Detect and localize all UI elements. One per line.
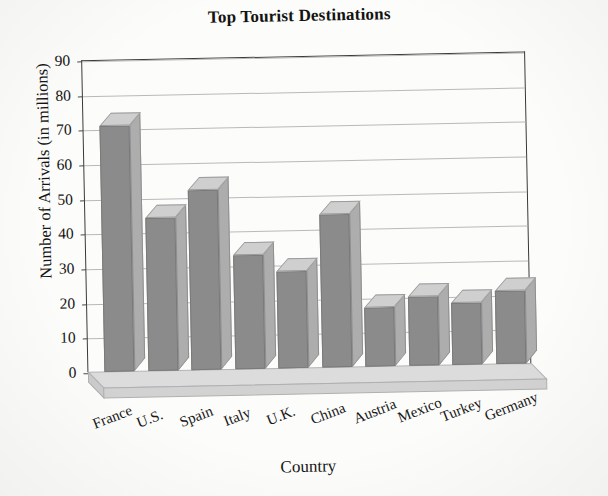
x-axis-tick-label: Germany: [482, 389, 540, 425]
x-axis-tick-label: Italy: [221, 404, 253, 430]
x-axis-tick-label: Turkey: [438, 394, 484, 425]
x-axis-tick-label: Spain: [177, 403, 215, 431]
chart-figure: Top Tourist Destinations Number of Arriv…: [0, 0, 608, 496]
x-axis-tick-label: France: [90, 402, 134, 433]
x-axis-tick-label: U.K.: [264, 403, 297, 429]
chart-canvas: Top Tourist Destinations Number of Arriv…: [0, 0, 608, 496]
x-axis-tick-label: Austria: [351, 396, 398, 428]
x-axis-tick-label: U.S.: [134, 406, 165, 431]
x-axis-tick-label: Mexico: [395, 394, 444, 426]
x-axis-tick-labels: FranceU.S.SpainItalyU.K.ChinaAustriaMexi…: [0, 0, 608, 496]
x-axis-tick-label: China: [308, 399, 348, 428]
